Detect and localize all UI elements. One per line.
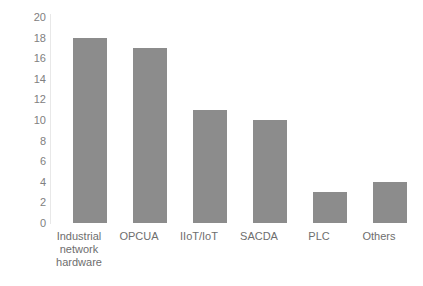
bar[interactable] xyxy=(133,48,167,223)
x-axis-category-labels: IndustrialnetworkhardwareOPCUAIIoT/IoTSA… xyxy=(51,230,412,282)
bar-slot xyxy=(62,17,122,223)
x-axis-category-label: Others xyxy=(344,230,414,243)
y-axis-tick-label: 2 xyxy=(0,197,46,208)
bar[interactable] xyxy=(253,120,287,223)
bar[interactable] xyxy=(373,182,407,223)
y-axis-tick-labels: 20181614121086420 xyxy=(0,0,46,286)
bar-slot xyxy=(302,17,362,223)
bar-slot xyxy=(122,17,182,223)
bar[interactable] xyxy=(73,38,107,223)
x-axis-category-label-line: network xyxy=(44,243,114,256)
bar-slot xyxy=(362,17,422,223)
y-axis-tick-label: 6 xyxy=(0,156,46,167)
bar-slot xyxy=(242,17,302,223)
y-axis-tick-label: 0 xyxy=(0,218,46,229)
y-axis-tick-label: 14 xyxy=(0,74,46,85)
x-axis-category-label-line: hardware xyxy=(44,256,114,269)
y-axis-tick-label: 18 xyxy=(0,33,46,44)
y-axis-tick-label: 10 xyxy=(0,115,46,126)
y-axis-tick-label: 16 xyxy=(0,53,46,64)
plot-area xyxy=(51,17,412,223)
y-axis-tick-label: 4 xyxy=(0,177,46,188)
bar[interactable] xyxy=(313,192,347,223)
x-axis-category-label-line: Others xyxy=(344,230,414,243)
y-axis-tick-label: 12 xyxy=(0,94,46,105)
y-axis-tick-label: 8 xyxy=(0,136,46,147)
bar-slot xyxy=(182,17,242,223)
bar-chart-figure: 20181614121086420 Industrialnetworkhardw… xyxy=(0,0,423,286)
bar[interactable] xyxy=(193,110,227,223)
y-axis-tick-label: 20 xyxy=(0,12,46,23)
